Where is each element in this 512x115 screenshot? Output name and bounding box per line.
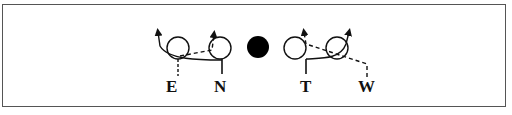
player-t: [284, 32, 349, 74]
label-w: W: [358, 77, 375, 96]
label-t: T: [300, 77, 312, 96]
label-n: N: [214, 77, 227, 96]
play-diagram: E N T W: [0, 0, 512, 115]
ball-icon: [247, 36, 269, 58]
label-e: E: [166, 77, 177, 96]
